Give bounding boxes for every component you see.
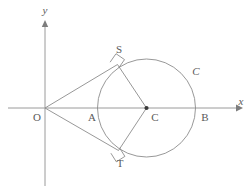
point-label-A: A xyxy=(88,111,96,123)
center-point-dot xyxy=(144,106,148,110)
segment-tangent-O-to-T xyxy=(45,108,119,151)
segment-tangent-O-to-S xyxy=(45,65,118,109)
right-angle-mark-at-S xyxy=(110,54,124,68)
y-axis-label: y xyxy=(42,4,48,16)
circle-name-label: C xyxy=(192,65,200,77)
point-label-C-center: C xyxy=(151,111,158,123)
segment-radius-C-to-T xyxy=(119,108,147,151)
point-label-T: T xyxy=(117,157,124,169)
x-axis-label: x xyxy=(238,95,244,107)
segment-radius-C-to-S xyxy=(118,65,147,109)
point-label-B: B xyxy=(201,111,208,123)
point-label-S: S xyxy=(116,43,122,55)
y-axis-arrow-icon xyxy=(42,20,48,27)
point-label-O: O xyxy=(33,111,41,123)
geometry-figure: O A C B S T C y x xyxy=(0,0,250,191)
geometry-diagram-svg: O A C B S T C y x xyxy=(0,0,250,191)
